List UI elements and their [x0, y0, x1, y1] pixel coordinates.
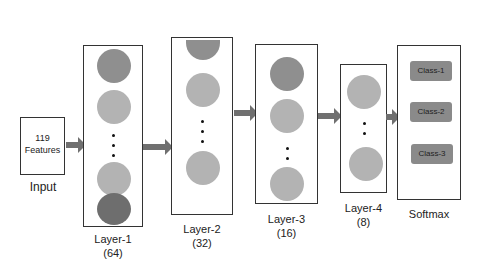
neuron — [97, 49, 131, 83]
class-3-box: Class-3 — [411, 144, 453, 164]
neuron — [97, 193, 131, 225]
neuron — [270, 99, 304, 133]
layer-4-units: (8) — [335, 215, 392, 229]
ellipsis-dot — [286, 157, 289, 160]
class-2-box: Class-2 — [410, 102, 452, 122]
ellipsis-dot — [286, 147, 289, 150]
layer-3-name: Layer-3 — [255, 212, 318, 226]
input-label: Input — [18, 180, 68, 194]
layer-1-units: (64) — [83, 246, 143, 260]
ellipsis-dot — [201, 140, 204, 143]
layer-3-box — [255, 44, 318, 204]
input-features-text: Features — [21, 144, 64, 156]
softmax-box: Class-1 Class-2 Class-3 — [397, 45, 461, 200]
neuron — [186, 73, 220, 107]
class-1-box: Class-1 — [410, 61, 452, 81]
ellipsis-dot — [112, 144, 115, 147]
neuron — [349, 147, 383, 181]
neuron — [97, 90, 131, 124]
layer-1-name: Layer-1 — [83, 232, 143, 246]
ellipsis-dot — [363, 132, 366, 135]
input-box: 119 Features — [20, 117, 65, 175]
neuron — [270, 167, 304, 201]
arrow-icon — [143, 139, 173, 155]
neuron — [186, 40, 220, 60]
ellipsis-dot — [201, 130, 204, 133]
layer-1-box — [83, 45, 143, 227]
neuron — [97, 162, 131, 196]
layer-2-name: Layer-2 — [171, 222, 233, 236]
input-features-count: 119 — [21, 132, 64, 144]
neuron — [186, 151, 220, 185]
arrow-icon — [318, 108, 342, 124]
layer-2-units: (32) — [171, 236, 233, 250]
layer-3-units: (16) — [255, 226, 318, 240]
neuron — [347, 75, 381, 109]
softmax-label: Softmax — [397, 207, 461, 221]
layer-4-name: Layer-4 — [335, 201, 392, 215]
ellipsis-dot — [201, 120, 204, 123]
layer-2-box — [171, 37, 233, 215]
ellipsis-dot — [112, 134, 115, 137]
ellipsis-dot — [363, 122, 366, 125]
neuron — [270, 57, 304, 91]
layer-4-box — [340, 64, 387, 193]
ellipsis-dot — [112, 154, 115, 157]
